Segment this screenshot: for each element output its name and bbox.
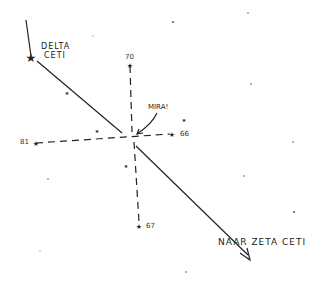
dot [39, 250, 40, 251]
mira-pointer-arrow [137, 113, 157, 134]
dot [172, 21, 174, 23]
star-67-icon: ★ [136, 223, 142, 231]
label-81: 81 [20, 138, 29, 146]
label-mira: MIRA! [148, 103, 168, 112]
dot [292, 141, 294, 143]
dashed-line-67 [134, 142, 139, 222]
label-zeta: NAAR ZETA CETI [218, 238, 306, 247]
dashed-line-81-66 [36, 134, 170, 143]
label-delta-line1: DELTA [41, 42, 70, 51]
dashed-line-70 [130, 66, 132, 132]
dot [92, 35, 93, 36]
star-icon: ★ [124, 163, 129, 169]
dot [185, 271, 187, 273]
dot [293, 211, 295, 213]
line-delta-mira [37, 61, 122, 133]
dot [247, 12, 249, 14]
dot [243, 175, 245, 177]
label-delta-line2: CETI [44, 51, 66, 60]
star-icon: ★ [65, 90, 70, 96]
star-66-icon: ★ [169, 131, 175, 139]
star-70-icon: ★ [127, 62, 133, 70]
label-66: 66 [180, 130, 189, 138]
star-delta-icon: ★ [26, 51, 37, 65]
star-81-icon: ★ [33, 140, 39, 148]
star-icon: ★ [95, 128, 100, 134]
label-70: 70 [125, 53, 134, 61]
label-67: 67 [146, 222, 155, 230]
arrow-head-icon [240, 248, 250, 260]
dot [250, 83, 252, 85]
dot [47, 178, 49, 180]
star-icon: ★ [182, 117, 187, 123]
